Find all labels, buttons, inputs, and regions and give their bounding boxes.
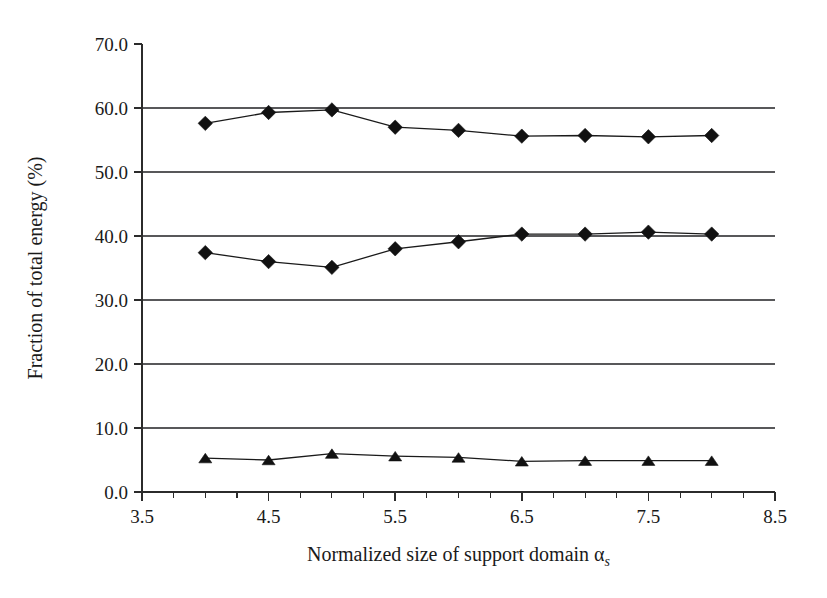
- y-axis-ticks: [134, 44, 142, 492]
- x-tick-label: 3.5: [130, 506, 154, 527]
- series-series-lower: [199, 449, 718, 466]
- x-tick-label: 6.5: [510, 506, 534, 527]
- data-point-diamond: [705, 227, 719, 241]
- y-tick-label: 60.0: [95, 98, 128, 119]
- y-tick-label: 0.0: [104, 482, 128, 503]
- series-series-middle: [198, 225, 719, 275]
- data-point-diamond: [261, 254, 275, 268]
- data-point-diamond: [198, 116, 212, 130]
- chart-figure: 3.54.55.56.57.58.5 0.010.020.030.040.050…: [0, 0, 827, 598]
- data-point-diamond: [641, 130, 655, 144]
- x-axis-ticks: [142, 492, 775, 501]
- data-point-diamond: [578, 227, 592, 241]
- x-tick-label: 4.5: [257, 506, 281, 527]
- data-point-diamond: [325, 260, 339, 274]
- x-axis-title: Normalized size of support domain αs: [307, 543, 611, 569]
- data-point-diamond: [515, 227, 529, 241]
- x-axis-tick-labels: 3.54.55.56.57.58.5: [130, 506, 787, 527]
- axes: [142, 44, 775, 492]
- data-point-diamond: [198, 245, 212, 259]
- x-tick-label: 7.5: [637, 506, 661, 527]
- data-point-diamond: [325, 103, 339, 117]
- y-axis-title: Fraction of total energy (%): [24, 157, 47, 380]
- gridlines: [142, 108, 775, 428]
- data-point-diamond: [578, 128, 592, 142]
- x-tick-label: 8.5: [763, 506, 787, 527]
- y-axis-tick-labels: 0.010.020.030.040.050.060.070.0: [95, 34, 128, 503]
- data-point-diamond: [261, 105, 275, 119]
- y-tick-label: 40.0: [95, 226, 128, 247]
- data-point-diamond: [451, 235, 465, 249]
- data-series: [198, 103, 719, 466]
- y-tick-label: 10.0: [95, 418, 128, 439]
- y-tick-label: 50.0: [95, 162, 128, 183]
- line-chart: 3.54.55.56.57.58.5 0.010.020.030.040.050…: [0, 0, 827, 598]
- data-point-diamond: [451, 123, 465, 137]
- y-tick-label: 70.0: [95, 34, 128, 55]
- data-point-diamond: [515, 129, 529, 143]
- y-tick-label: 20.0: [95, 354, 128, 375]
- data-point-diamond: [641, 225, 655, 239]
- data-point-diamond: [705, 128, 719, 142]
- series-series-upper: [198, 103, 719, 144]
- data-point-diamond: [388, 120, 402, 134]
- data-point-diamond: [388, 242, 402, 256]
- y-tick-label: 30.0: [95, 290, 128, 311]
- x-tick-label: 5.5: [383, 506, 407, 527]
